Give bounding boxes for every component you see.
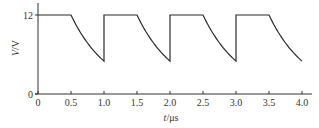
x-tick-label: 0.5 [65,97,78,108]
x-tick-label: 1.0 [98,97,111,108]
x-tick-label: 3.0 [230,97,243,108]
x-tick-label: 1.5 [131,97,144,108]
voltage-curve [38,15,302,61]
voltage-time-chart: 00.51.01.52.02.53.03.54.0012 t/μs V/V [0,0,319,128]
y-tick-label: 0 [28,89,33,100]
x-tick-label: 2.5 [197,97,210,108]
x-axis-label: t/μs [164,112,179,123]
y-axis-label: V/V [10,39,21,56]
x-tick-label: 2.0 [164,97,177,108]
ticks: 00.51.01.52.02.53.03.54.0012 [23,10,308,109]
x-tick-label: 3.5 [263,97,276,108]
y-tick-label: 12 [23,10,33,21]
x-tick-label: 0 [36,97,41,108]
x-tick-label: 4.0 [296,97,309,108]
